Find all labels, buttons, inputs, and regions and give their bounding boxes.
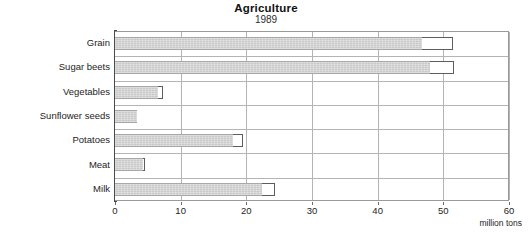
chart-subtitle: 1989 [0,15,532,26]
x-tick-label: 40 [372,205,383,216]
page-title: Agriculture [0,2,532,14]
category-label-sunflower-seeds: Sunflower seeds [0,110,110,121]
x-axis-ticks: 0102030405060 [115,202,509,218]
bar-row [115,105,508,129]
bar-row [115,81,508,105]
bar-row [115,56,508,80]
bar-row [115,178,508,202]
y-axis-category-labels: GrainSugar beetsVegetablesSunflower seed… [0,31,110,201]
category-label-vegetables: Vegetables [0,86,110,97]
bar-filled-segment [115,37,422,50]
bar-row [115,129,508,153]
gridline-vertical [509,32,510,200]
category-label-milk: Milk [0,183,110,194]
bar-row [115,32,508,56]
bar-filled-segment [115,134,233,147]
x-axis-unit-label: million tons [479,218,522,228]
x-tick-label: 10 [175,205,186,216]
bar-filled-segment [115,183,262,196]
bar-filled-segment [115,61,430,74]
x-tick-label: 20 [241,205,252,216]
agriculture-bar-chart: Agriculture 1989 GrainSugar beetsVegetab… [0,0,532,234]
bar-row [115,153,508,177]
bar-filled-segment [115,86,158,99]
category-label-potatoes: Potatoes [0,134,110,145]
bar-filled-segment [115,110,137,123]
x-tick-label: 0 [112,205,117,216]
plot-area [115,31,509,201]
category-label-sugar-beets: Sugar beets [0,61,110,72]
chart-title-block: Agriculture 1989 [0,2,532,26]
x-tick-label: 60 [504,205,515,216]
x-tick-label: 50 [438,205,449,216]
category-label-grain: Grain [0,37,110,48]
category-label-meat: Meat [0,159,110,170]
bar-filled-segment [115,158,143,171]
x-tick-label: 30 [307,205,318,216]
